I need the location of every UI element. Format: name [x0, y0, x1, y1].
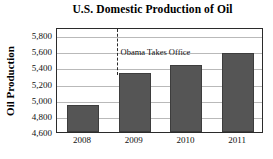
y-axis-tick-label: 4,800 — [0, 112, 52, 122]
y-axis-tick-label: 4,600 — [0, 128, 52, 138]
x-axis-tick-label: 2011 — [228, 135, 246, 145]
obama-takes-office-label: Obama Takes Office — [121, 47, 191, 57]
gridline — [57, 37, 262, 38]
plot-area: Obama Takes Office — [56, 28, 263, 133]
x-axis-tick-label: 2009 — [125, 135, 143, 145]
y-axis-tick-label: 5,200 — [0, 80, 52, 90]
chart-title: U.S. Domestic Production of Oil — [40, 3, 265, 15]
y-axis-tick-label: 5,000 — [0, 96, 52, 106]
x-axis-tick-label: 2008 — [73, 135, 91, 145]
x-axis-tick-label: 2010 — [176, 135, 194, 145]
bar — [67, 105, 99, 132]
y-axis-tick-label: 5,800 — [0, 31, 52, 41]
bar — [119, 73, 151, 132]
bar — [222, 53, 254, 132]
y-axis-tick-label: 5,600 — [0, 47, 52, 57]
chart-figure: U.S. Domestic Production of Oil Oil Prod… — [0, 0, 273, 159]
obama-takes-office-dashed-line — [117, 29, 118, 75]
y-axis-tick-label: 5,400 — [0, 63, 52, 73]
bar — [170, 65, 202, 132]
